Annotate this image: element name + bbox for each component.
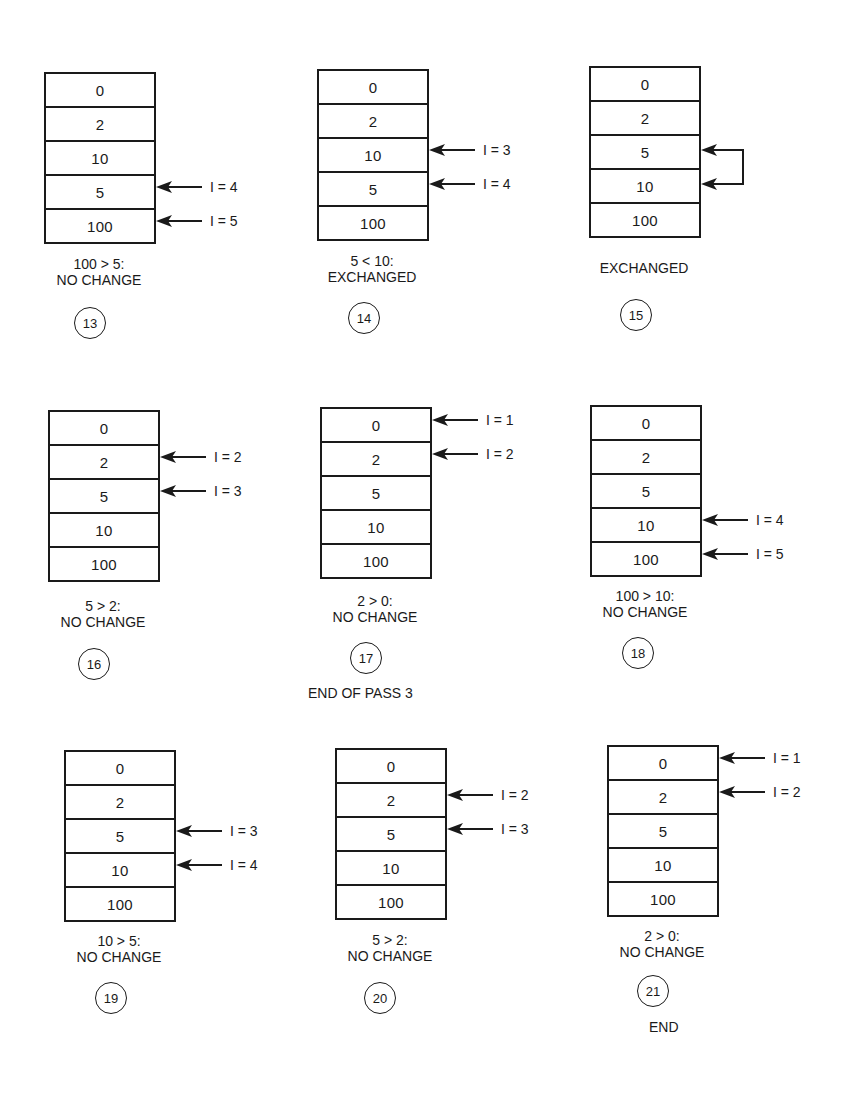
- array-cell: 100: [50, 548, 158, 580]
- index-pointer: I = 5: [702, 547, 784, 561]
- index-pointer: I = 3: [160, 484, 242, 498]
- array-cell: 10: [46, 142, 154, 176]
- array-cell: 100: [592, 543, 700, 575]
- index-pointer: I = 4: [702, 513, 784, 527]
- step-number-circle: 21: [637, 975, 669, 1007]
- index-label: I = 3: [230, 823, 258, 839]
- sort-step-panel-13: 0 2 10 5 100 100 > 5: NO CHANGE 13 I = 4…: [44, 72, 304, 392]
- sort-step-panel-19: 0 2 5 10 100 10 > 5: NO CHANGE 19 I = 3I…: [64, 750, 324, 1070]
- step-number-circle: 18: [622, 637, 654, 669]
- comparison-caption: 2 > 0: NO CHANGE: [300, 593, 450, 625]
- array-cell: 100: [591, 204, 699, 236]
- array-cell: 10: [319, 139, 427, 173]
- result-text: NO CHANGE: [315, 948, 465, 964]
- step-number: 15: [629, 308, 643, 323]
- array-cell: 2: [591, 102, 699, 136]
- array-cell: 5: [319, 173, 427, 207]
- result-text: NO CHANGE: [587, 944, 737, 960]
- sort-step-panel-21: 0 2 5 10 100 2 > 0: NO CHANGE 21 I = 1I …: [607, 745, 842, 1065]
- index-pointer: I = 2: [447, 788, 529, 802]
- sort-step-panel-20: 0 2 5 10 100 5 > 2: NO CHANGE 20 I = 2I …: [335, 748, 595, 1068]
- array-cell: 10: [609, 849, 717, 883]
- left-arrow-icon: [429, 177, 475, 191]
- step-number-circle: 17: [350, 642, 382, 674]
- index-pointer: I = 3: [429, 143, 511, 157]
- index-label: I = 4: [230, 857, 258, 873]
- comparison-caption: EXCHANGED: [569, 260, 719, 276]
- array-stack: 0 2 10 5 100: [317, 69, 429, 241]
- index-label: I = 5: [210, 213, 238, 229]
- left-arrow-icon: [160, 450, 206, 464]
- result-text: EXCHANGED: [569, 260, 719, 276]
- comparison-caption: 100 > 10: NO CHANGE: [570, 588, 720, 620]
- index-label: I = 2: [486, 446, 514, 462]
- index-pointer: I = 3: [176, 824, 258, 838]
- comparison-text: 5 < 10:: [297, 253, 447, 269]
- array-cell: 5: [609, 815, 717, 849]
- step-number-circle: 20: [364, 982, 396, 1014]
- step-number: 21: [646, 984, 660, 999]
- array-stack: 0 2 5 10 100: [64, 750, 176, 922]
- sort-step-panel-18: 0 2 5 10 100 100 > 10: NO CHANGE 18 I = …: [590, 405, 842, 725]
- array-cell: 0: [337, 750, 445, 784]
- array-cell: 10: [337, 852, 445, 886]
- array-stack: 0 2 5 10 100: [320, 407, 432, 579]
- comparison-caption: 5 < 10: EXCHANGED: [297, 253, 447, 285]
- sort-step-panel-17: 0 2 5 10 100 2 > 0: NO CHANGE 17 I = 1I …: [320, 407, 580, 727]
- index-label: I = 3: [483, 142, 511, 158]
- left-arrow-icon: [156, 180, 202, 194]
- index-label: I = 4: [756, 512, 784, 528]
- left-arrow-icon: [719, 785, 765, 799]
- index-label: I = 2: [214, 449, 242, 465]
- end-label: END: [649, 1019, 679, 1035]
- index-label: I = 1: [773, 750, 801, 766]
- array-cell: 2: [592, 441, 700, 475]
- array-cell: 100: [337, 886, 445, 918]
- left-arrow-icon: [429, 143, 475, 157]
- left-arrow-icon: [702, 547, 748, 561]
- left-arrow-icon: [176, 824, 222, 838]
- array-stack: 0 2 5 10 100: [48, 410, 160, 582]
- index-pointer: I = 2: [432, 447, 514, 461]
- index-pointer: I = 3: [447, 822, 529, 836]
- comparison-text: 10 > 5:: [44, 933, 194, 949]
- result-text: NO CHANGE: [44, 949, 194, 965]
- index-pointer: I = 5: [156, 214, 238, 228]
- step-number-circle: 16: [78, 648, 110, 680]
- index-label: I = 2: [773, 784, 801, 800]
- step-number: 20: [373, 991, 387, 1006]
- step-number: 16: [87, 657, 101, 672]
- result-text: NO CHANGE: [300, 609, 450, 625]
- index-label: I = 1: [486, 412, 514, 428]
- array-cell: 0: [609, 747, 717, 781]
- end-of-pass-label: END OF PASS 3: [308, 685, 413, 701]
- comparison-text: 2 > 0:: [587, 928, 737, 944]
- array-cell: 0: [50, 412, 158, 446]
- index-label: I = 5: [756, 546, 784, 562]
- array-cell: 100: [322, 545, 430, 577]
- index-label: I = 3: [501, 821, 529, 837]
- left-arrow-icon: [176, 858, 222, 872]
- index-pointer: I = 4: [156, 180, 238, 194]
- step-number: 19: [104, 991, 118, 1006]
- index-pointer: I = 1: [432, 413, 514, 427]
- left-arrow-icon: [432, 413, 478, 427]
- result-text: NO CHANGE: [570, 604, 720, 620]
- array-stack: 0 2 10 5 100: [44, 72, 156, 244]
- sort-step-panel-14: 0 2 10 5 100 5 < 10: EXCHANGED 14 I = 3I…: [317, 69, 577, 389]
- swap-arrows-icon: [701, 144, 751, 194]
- array-cell: 10: [66, 854, 174, 888]
- array-cell: 10: [322, 511, 430, 545]
- array-cell: 5: [592, 475, 700, 509]
- array-stack: 0 2 5 10 100: [589, 66, 701, 238]
- array-cell: 0: [319, 71, 427, 105]
- comparison-text: 5 > 2:: [28, 598, 178, 614]
- result-text: NO CHANGE: [28, 614, 178, 630]
- comparison-caption: 2 > 0: NO CHANGE: [587, 928, 737, 960]
- array-cell: 100: [66, 888, 174, 920]
- comparison-text: 100 > 10:: [570, 588, 720, 604]
- array-cell: 0: [591, 68, 699, 102]
- index-pointer: I = 4: [176, 858, 258, 872]
- array-cell: 0: [592, 407, 700, 441]
- step-number-circle: 14: [348, 302, 380, 334]
